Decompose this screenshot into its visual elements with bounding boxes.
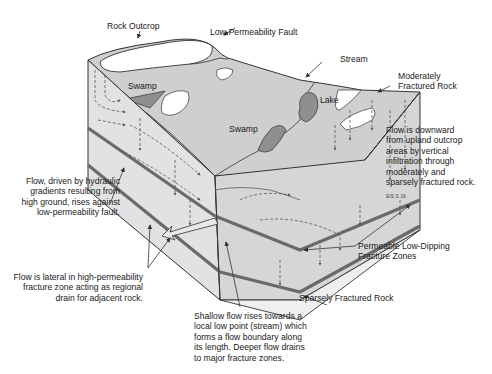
label-line: Flow, driven by hydraulic: [22, 176, 120, 186]
label-line: infiltration through: [386, 156, 475, 166]
label-line: its length. Deeper flow drains: [194, 342, 307, 352]
label-line: from upland outcrop: [386, 135, 475, 145]
label-line: Flow is downward: [386, 125, 475, 135]
label-line: drain for adjacent rock.: [14, 293, 143, 303]
label-line: high ground, rises against: [22, 197, 120, 207]
label-line: Fracture Zones: [358, 251, 450, 261]
label-swamp-upper: Swamp: [128, 81, 157, 91]
label-line: Flow is lateral in high-permeability: [14, 272, 143, 282]
label-line: moderately and: [386, 167, 475, 177]
label-stream: Stream: [340, 54, 368, 64]
label-line: local low point (stream) which: [194, 321, 307, 331]
label-flow-downward: Flow is downward from upland outcrop are…: [386, 125, 475, 187]
label-line: Moderately: [398, 71, 457, 81]
figure-code: EIS S 16: [386, 193, 406, 199]
label-line: low-permeability fault.: [22, 207, 120, 217]
label-lake: Lake: [320, 95, 339, 105]
label-flow-driven: Flow, driven by hydraulic gradients resu…: [22, 176, 120, 218]
label-line: sparsely fractured rock.: [386, 177, 475, 187]
label-shallow-flow: Shallow flow rises towards a local low p…: [194, 311, 307, 363]
label-moderately-fractured-rock: Moderately Fractured Rock: [398, 71, 457, 92]
label-line: Shallow flow rises towards a: [194, 311, 307, 321]
label-rock-outcrop: Rock Outcrop: [107, 21, 160, 31]
label-permeable-fracture-zones: Permeable Low-Dipping Fracture Zones: [358, 241, 450, 262]
label-low-permeability-fault: Low-Permeability Fault: [210, 27, 297, 37]
label-line: gradients resulting from: [22, 186, 120, 196]
label-swamp-lower: Swamp: [229, 124, 258, 134]
label-line: Permeable Low-Dipping: [358, 241, 450, 251]
label-line: Fractured Rock: [398, 81, 457, 91]
label-line: to major fracture zones.: [194, 353, 307, 363]
label-line: areas by vertical: [386, 146, 475, 156]
label-sparsely-fractured-rock: Sparsely Fractured Rock: [299, 293, 394, 303]
label-line: fracture zone acting as regional: [14, 282, 143, 292]
label-flow-lateral: Flow is lateral in high-permeability fra…: [14, 272, 143, 303]
label-line: forms a flow boundary along: [194, 332, 307, 342]
